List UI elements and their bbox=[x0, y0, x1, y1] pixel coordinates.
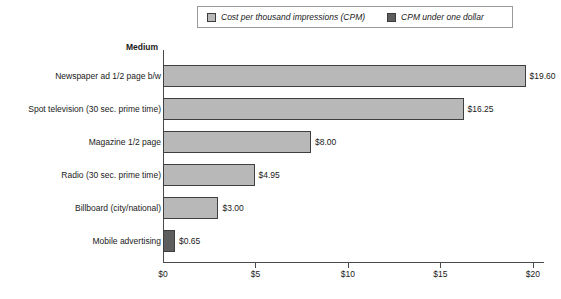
bar[interactable] bbox=[163, 65, 526, 87]
bar-row: Radio (30 sec. prime time)$4.95 bbox=[0, 159, 561, 192]
bar-value-label: $16.25 bbox=[468, 105, 494, 114]
x-tick-mark bbox=[255, 263, 256, 268]
bar-container: $8.00 bbox=[163, 131, 336, 153]
legend-label-cpm: Cost per thousand impressions (CPM) bbox=[221, 13, 365, 22]
bar-row: Billboard (city/national)$3.00 bbox=[0, 192, 561, 225]
x-tick-mark bbox=[348, 263, 349, 268]
bar-container: $19.60 bbox=[163, 65, 556, 87]
legend-swatch-light-gray-icon bbox=[207, 13, 216, 22]
bar-value-label: $4.95 bbox=[259, 171, 280, 180]
bar[interactable] bbox=[163, 98, 464, 120]
bar-row: Mobile advertising$0.65 bbox=[0, 225, 561, 258]
bar-container: $16.25 bbox=[163, 98, 494, 120]
bar-category-label: Mobile advertising bbox=[92, 237, 161, 246]
bar[interactable] bbox=[163, 164, 255, 186]
bar-value-label: $3.00 bbox=[222, 204, 243, 213]
bar-container: $0.65 bbox=[163, 230, 200, 252]
x-axis-line bbox=[163, 262, 544, 263]
bar-row: Newspaper ad 1/2 page b/w$19.60 bbox=[0, 60, 561, 93]
bar-container: $3.00 bbox=[163, 197, 244, 219]
y-axis-title: Medium bbox=[126, 43, 163, 52]
bar-row: Magazine 1/2 page$8.00 bbox=[0, 126, 561, 159]
legend-entry-cpm: Cost per thousand impressions (CPM) bbox=[207, 13, 365, 22]
x-tick-mark bbox=[533, 263, 534, 268]
legend-entry-cpm-under-one-dollar: CPM under one dollar bbox=[387, 13, 484, 22]
x-tick-mark bbox=[440, 263, 441, 268]
bar[interactable] bbox=[163, 131, 311, 153]
bar-category-label: Billboard (city/national) bbox=[75, 204, 161, 213]
bar[interactable] bbox=[163, 230, 175, 252]
x-tick-label: $15 bbox=[433, 270, 447, 279]
legend-swatch-dark-gray-icon bbox=[387, 13, 396, 22]
bar-value-label: $19.60 bbox=[530, 72, 556, 81]
chart-legend: Cost per thousand impressions (CPM) CPM … bbox=[197, 6, 513, 28]
x-tick-label: $0 bbox=[158, 270, 167, 279]
bar-category-label: Newspaper ad 1/2 page b/w bbox=[55, 72, 161, 81]
bar-rows: Newspaper ad 1/2 page b/w$19.60Spot tele… bbox=[0, 60, 561, 258]
bar-category-label: Magazine 1/2 page bbox=[89, 138, 161, 147]
x-tick-label: $10 bbox=[341, 270, 355, 279]
bar-category-label: Spot television (30 sec. prime time) bbox=[28, 105, 161, 114]
bar-row: Spot television (30 sec. prime time)$16.… bbox=[0, 93, 561, 126]
x-tick-label: $5 bbox=[251, 270, 260, 279]
x-tick-label: $20 bbox=[526, 270, 540, 279]
bar-value-label: $0.65 bbox=[179, 237, 200, 246]
bar-category-label: Radio (30 sec. prime time) bbox=[61, 171, 161, 180]
legend-label-cpm-under-one-dollar: CPM under one dollar bbox=[401, 13, 484, 22]
bar[interactable] bbox=[163, 197, 218, 219]
bar-container: $4.95 bbox=[163, 164, 280, 186]
bar-chart: Medium Newspaper ad 1/2 page b/w$19.60Sp… bbox=[0, 34, 561, 299]
bar-value-label: $8.00 bbox=[315, 138, 336, 147]
